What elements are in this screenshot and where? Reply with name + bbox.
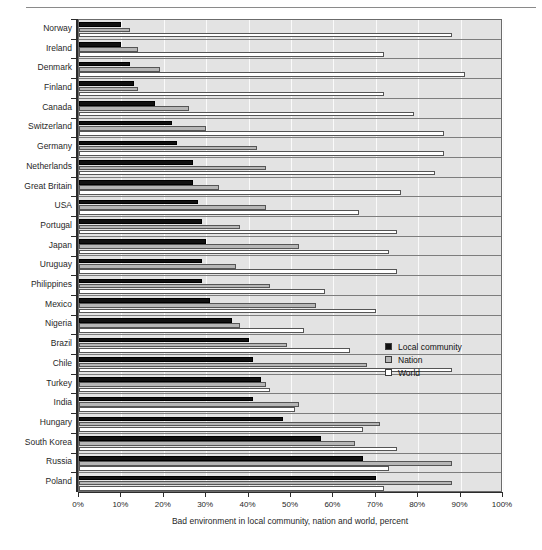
y-axis-label-mexico: Mexico [2, 300, 72, 309]
bar-nation [79, 481, 452, 486]
x-axis-label-30%: 30% [185, 500, 225, 509]
bar-group [79, 434, 501, 454]
legend-swatch-icon [385, 369, 392, 376]
bar-world [79, 388, 270, 393]
bar-group [79, 237, 501, 257]
bar-group [79, 79, 501, 99]
bar-local [79, 397, 253, 402]
bar-nation [79, 47, 138, 52]
x-tick [248, 492, 249, 497]
bar-local [79, 436, 321, 441]
bar-nation [79, 284, 270, 289]
x-tick [78, 492, 79, 497]
header-divider [26, 7, 536, 8]
y-axis-label-great-britain: Great Britain [2, 182, 72, 191]
bar-local [79, 42, 121, 47]
y-axis-label-poland: Poland [2, 477, 72, 486]
x-axis-label-80%: 80% [397, 500, 437, 509]
y-tick [71, 315, 77, 316]
bar-group [79, 138, 501, 158]
bar-group [79, 394, 501, 414]
bar-local [79, 62, 130, 67]
bar-nation [79, 461, 452, 466]
bar-local [79, 22, 121, 27]
x-axis-label-60%: 60% [312, 500, 352, 509]
bar-local [79, 259, 202, 264]
bar-group [79, 40, 501, 60]
bar-local [79, 219, 202, 224]
bar-world [79, 72, 465, 77]
bar-local [79, 279, 202, 284]
y-axis-label-canada: Canada [2, 103, 72, 112]
legend-item: Local community [385, 340, 462, 353]
y-tick [71, 19, 77, 20]
y-axis-label-south-korea: South Korea [2, 438, 72, 447]
bar-group [79, 119, 501, 139]
chart-page: NorwayIrelandDenmarkFinlandCanadaSwitzer… [0, 0, 542, 550]
y-axis-label-denmark: Denmark [2, 63, 72, 72]
y-axis-label-philippines: Philippines [2, 280, 72, 289]
bar-world [79, 171, 435, 176]
x-axis-label-20%: 20% [143, 500, 183, 509]
bar-group [79, 59, 501, 79]
y-axis-label-india: India [2, 398, 72, 407]
legend-label: Nation [398, 355, 423, 365]
y-axis-label-turkey: Turkey [2, 379, 72, 388]
y-tick [71, 177, 77, 178]
gridline-100% [503, 20, 504, 491]
bar-nation [79, 422, 380, 427]
bar-local [79, 417, 283, 422]
bar-local [79, 160, 193, 165]
x-tick [375, 492, 376, 497]
y-tick [71, 196, 77, 197]
bar-world [79, 92, 384, 97]
bar-nation [79, 185, 219, 190]
bar-world [79, 190, 401, 195]
y-axis-label-portugal: Portugal [2, 221, 72, 230]
bar-nation [79, 343, 287, 348]
bar-world [79, 210, 359, 215]
bar-local [79, 180, 193, 185]
y-tick [71, 374, 77, 375]
x-tick [120, 492, 121, 497]
y-axis-label-switzerland: Switzerland [2, 122, 72, 131]
legend-item: World [385, 366, 462, 379]
bar-rows [79, 20, 501, 491]
bar-local [79, 298, 210, 303]
y-tick [71, 78, 77, 79]
bar-local [79, 456, 363, 461]
bar-world [79, 151, 444, 156]
bar-nation [79, 87, 138, 92]
bar-group [79, 20, 501, 40]
bar-local [79, 338, 249, 343]
bar-group [79, 276, 501, 296]
y-axis-labels: NorwayIrelandDenmarkFinlandCanadaSwitzer… [0, 19, 72, 492]
legend-label: World [398, 368, 420, 378]
bar-world [79, 269, 397, 274]
x-axis-title: Bad environment in local community, nati… [78, 516, 502, 526]
y-axis-label-finland: Finland [2, 83, 72, 92]
bar-world [79, 131, 444, 136]
x-tick [332, 492, 333, 497]
y-axis-label-japan: Japan [2, 241, 72, 250]
bar-nation [79, 225, 240, 230]
y-axis-label-chile: Chile [2, 359, 72, 368]
y-tick [71, 393, 77, 394]
bar-local [79, 121, 172, 126]
bar-world [79, 230, 397, 235]
bar-group [79, 158, 501, 178]
y-tick [71, 236, 77, 237]
y-tick [71, 413, 77, 414]
x-axis-label-70%: 70% [355, 500, 395, 509]
y-axis-label-hungary: Hungary [2, 418, 72, 427]
bar-group [79, 414, 501, 434]
bar-local [79, 101, 155, 106]
bar-group [79, 316, 501, 336]
y-tick [71, 118, 77, 119]
bar-nation [79, 363, 367, 368]
y-tick [71, 433, 77, 434]
y-axis-label-ireland: Ireland [2, 44, 72, 53]
bar-world [79, 348, 350, 353]
bar-world [79, 486, 384, 491]
y-axis-label-uruguay: Uruguay [2, 260, 72, 269]
